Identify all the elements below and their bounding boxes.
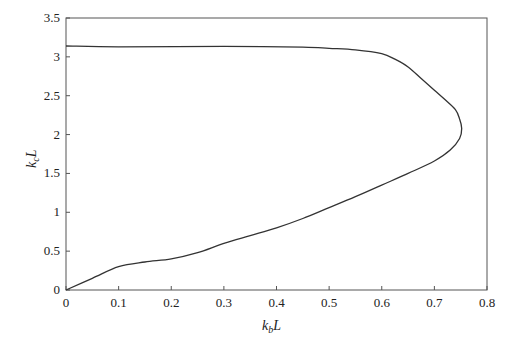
x-tick-label: 0.6 bbox=[374, 295, 391, 310]
plot-frame bbox=[66, 18, 487, 290]
x-tick-label: 0.7 bbox=[426, 295, 443, 310]
x-tick-label: 0.1 bbox=[111, 295, 127, 310]
x-tick-label: 0.5 bbox=[321, 295, 337, 310]
y-tick-label: 2.5 bbox=[44, 88, 60, 103]
x-tick-label: 0 bbox=[63, 295, 70, 310]
y-tick-label: 2 bbox=[54, 127, 61, 142]
y-tick-label: 1.5 bbox=[44, 165, 60, 180]
y-tick-label: 1 bbox=[54, 204, 61, 219]
y-tick-label: 3.5 bbox=[44, 10, 60, 25]
data-series bbox=[66, 46, 462, 290]
y-axis-label: kcL bbox=[24, 149, 41, 168]
chart: 00.10.20.30.40.50.60.70.8 00.511.522.533… bbox=[0, 0, 506, 347]
x-axis-label: kbL bbox=[262, 318, 281, 335]
x-tick-label: 0.2 bbox=[163, 295, 179, 310]
y-tick-label: 0 bbox=[54, 282, 61, 297]
x-tick-label: 0.4 bbox=[268, 295, 285, 310]
series-line bbox=[66, 46, 462, 290]
x-tick-label: 0.3 bbox=[216, 295, 232, 310]
y-tick-label: 3 bbox=[54, 49, 61, 64]
x-tick-label: 0.8 bbox=[479, 295, 495, 310]
y-tick-label: 0.5 bbox=[44, 243, 60, 258]
